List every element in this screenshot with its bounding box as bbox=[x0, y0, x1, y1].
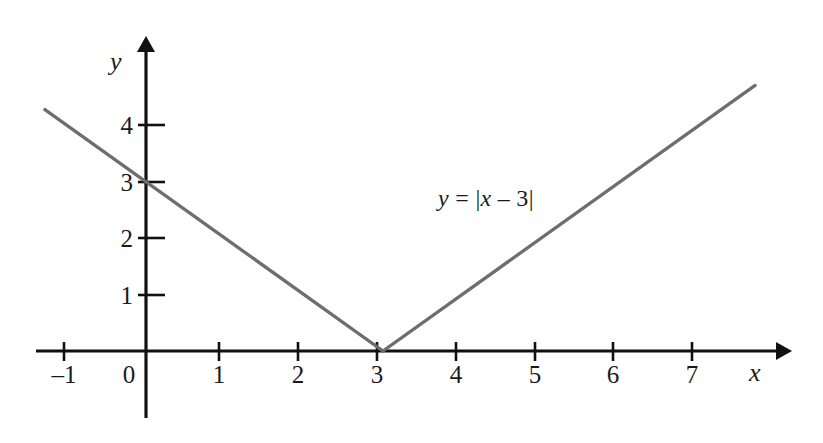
origin-label: 0 bbox=[123, 362, 136, 387]
equation-annotation: y = |x – 3| bbox=[438, 186, 534, 210]
x-tick-label-6: 6 bbox=[607, 362, 620, 387]
x-tick-label-7: 7 bbox=[686, 362, 699, 387]
y-tick-label-4: 4 bbox=[121, 113, 134, 138]
x-tick-label-2: 2 bbox=[292, 362, 305, 387]
equation-y-symbol: y bbox=[438, 185, 449, 211]
x-axis bbox=[36, 342, 792, 361]
x-axis-arrowhead-icon bbox=[776, 342, 792, 360]
x-tick-label-5: 5 bbox=[529, 362, 542, 387]
x-tick-label-4: 4 bbox=[450, 362, 463, 387]
y-tick-label-2: 2 bbox=[121, 226, 134, 251]
y-axis bbox=[137, 36, 165, 418]
y-axis-label: y bbox=[110, 49, 122, 75]
y-tick-label-1: 1 bbox=[121, 283, 134, 308]
equation-tail: – 3| bbox=[491, 185, 533, 211]
x-tick-label--1: –1 bbox=[52, 362, 77, 387]
x-axis-label: x bbox=[749, 360, 761, 386]
equation-operator: = | bbox=[449, 185, 481, 211]
y-axis-arrowhead-icon bbox=[137, 36, 155, 52]
y-axis-ticks bbox=[138, 125, 165, 295]
equation-x-symbol: x bbox=[481, 185, 492, 211]
absolute-value-graph-figure: –1 1 2 3 4 5 6 7 0 1 2 3 4 y x y = |x – … bbox=[0, 0, 823, 443]
x-tick-label-1: 1 bbox=[213, 362, 226, 387]
y-tick-label-3: 3 bbox=[121, 170, 134, 195]
x-tick-label-3: 3 bbox=[371, 362, 384, 387]
